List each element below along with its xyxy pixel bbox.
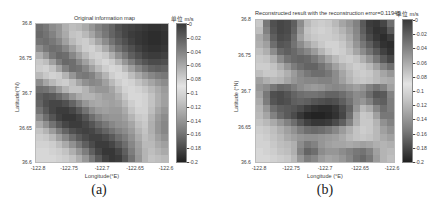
heatmap-cell — [135, 65, 142, 72]
heatmap-cell — [69, 86, 76, 93]
heatmap-cell — [284, 55, 291, 62]
heatmap-cell — [346, 141, 353, 148]
heatmap-cell — [95, 79, 102, 86]
heatmap-cell — [387, 119, 394, 126]
heatmap-cell — [36, 86, 43, 93]
heatmap-cell — [128, 52, 135, 59]
heatmap-cell — [318, 119, 325, 126]
heatmap-cell — [56, 134, 63, 141]
heatmap-cell — [36, 31, 43, 38]
heatmap-cell — [122, 79, 129, 86]
heatmap-cell — [161, 38, 168, 45]
heatmap-cell — [36, 155, 43, 162]
heatmap-cell — [311, 41, 318, 48]
heatmap-cell — [102, 72, 109, 79]
heatmap-cell — [142, 121, 149, 128]
heatmap-cell — [277, 77, 284, 84]
heatmap-cell — [380, 141, 387, 148]
heatmap-cell — [89, 24, 96, 31]
heatmap-cell — [43, 65, 50, 72]
heatmap-cell — [109, 148, 116, 155]
heatmap-cell — [318, 34, 325, 41]
heatmap-cell — [366, 155, 373, 162]
heatmap-cell — [56, 107, 63, 114]
heatmap-cell — [339, 41, 346, 48]
heatmap-cell — [339, 98, 346, 105]
colorbar-tick-label: -0.14 — [415, 116, 427, 122]
heatmap-cell — [325, 77, 332, 84]
heatmap-cell — [122, 107, 129, 114]
heatmap-cell — [360, 141, 367, 148]
heatmap-cell — [297, 148, 304, 155]
heatmap-cell — [142, 93, 149, 100]
heatmap-cell — [82, 148, 89, 155]
heatmap-cell — [115, 72, 122, 79]
heatmap-cell — [291, 70, 298, 77]
heatmap-cell — [263, 34, 270, 41]
heatmap-cell — [49, 24, 56, 31]
x-tick-label: -122.8 — [31, 165, 46, 171]
heatmap-cell — [366, 84, 373, 91]
heatmap-cell — [49, 114, 56, 121]
heatmap-cell — [291, 112, 298, 119]
heatmap-cell — [69, 65, 76, 72]
heatmap-cell — [109, 38, 116, 45]
heatmap-cell — [339, 70, 346, 77]
heatmap-cell — [270, 155, 277, 162]
heatmap-cell — [297, 55, 304, 62]
heatmap-cell — [284, 70, 291, 77]
heatmap-cell — [256, 48, 263, 55]
heatmap-cell — [297, 70, 304, 77]
heatmap-cell — [102, 128, 109, 135]
heatmap-cell — [263, 70, 270, 77]
heatmap-cell — [56, 141, 63, 148]
heatmap-cell — [69, 79, 76, 86]
heatmap-cell — [155, 121, 162, 128]
heatmap-cell — [76, 155, 83, 162]
heatmap-cell — [95, 59, 102, 66]
heatmap-cell — [270, 126, 277, 133]
heatmap-cell — [353, 91, 360, 98]
heatmap-cell — [102, 86, 109, 93]
heatmap-cell — [122, 72, 129, 79]
heatmap-cell — [332, 63, 339, 70]
heatmap-cell — [89, 128, 96, 135]
heatmap-cell — [56, 155, 63, 162]
heatmap-cell — [318, 134, 325, 141]
heatmap-cell — [82, 65, 89, 72]
heatmap-cell — [56, 65, 63, 72]
heatmap-cell — [69, 72, 76, 79]
colorbar-tick-label: -0.1 — [415, 88, 424, 94]
colorbar-tick-label: -0.1 — [189, 90, 198, 96]
heatmap-cell — [297, 41, 304, 48]
heatmap-cell — [256, 91, 263, 98]
heatmap-cell — [62, 31, 69, 38]
heatmap-cell — [102, 100, 109, 107]
heatmap-cell — [360, 41, 367, 48]
heatmap-cell — [256, 105, 263, 112]
heatmap-cell — [325, 112, 332, 119]
heatmap-cell — [263, 55, 270, 62]
heatmap-cell — [387, 84, 394, 91]
y-tick-label: 36.65 — [10, 125, 32, 131]
heatmap-cell — [43, 52, 50, 59]
heatmap-cell — [380, 126, 387, 133]
heatmap-cell — [69, 134, 76, 141]
heatmap-cell — [256, 77, 263, 84]
heatmap-cell — [270, 20, 277, 27]
heatmap-cell — [76, 38, 83, 45]
heatmap-cell — [304, 119, 311, 126]
heatmap-cell — [304, 84, 311, 91]
heatmap-cell — [142, 100, 149, 107]
heatmap-cell — [353, 98, 360, 105]
heatmap-cell — [148, 38, 155, 45]
heatmap-cell — [311, 20, 318, 27]
heatmap-cell — [339, 141, 346, 148]
heatmap-cell — [155, 59, 162, 66]
heatmap-cell — [69, 59, 76, 66]
heatmap-cell — [89, 79, 96, 86]
heatmap-cell — [318, 105, 325, 112]
heatmap-cell — [109, 128, 116, 135]
heatmap-cell — [89, 93, 96, 100]
heatmap-cell — [256, 41, 263, 48]
